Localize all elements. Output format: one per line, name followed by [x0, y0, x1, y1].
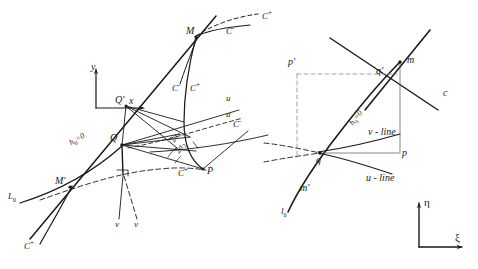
left-line-v-left — [119, 176, 123, 219]
left-curve-label-c-minus-top: C- — [226, 25, 234, 36]
left-y-axis-label: y — [91, 62, 95, 72]
left-point-label-M-prime: M' — [55, 176, 65, 186]
right-point-label-p: p — [402, 148, 407, 158]
right-dashed-guides — [297, 74, 397, 155]
right-point-label-m-prime: m' — [300, 183, 309, 193]
left-point-label-Q-prime: Q' — [115, 95, 124, 105]
left-straight-line-QM — [30, 16, 216, 239]
figure-canvas: y x M Q' Q P M' C+ C- C- C+ C- C+ C+ u u… — [0, 0, 478, 269]
left-line-P-upper-right — [203, 131, 248, 169]
left-curve-label-c-minus-right: C- — [233, 118, 241, 129]
left-line-u-upper — [122, 110, 239, 145]
left-line-label-u-lower: u — [226, 110, 231, 119]
right-label-v-line: v - line — [368, 127, 396, 137]
left-curve-label-c-minus-mid: C- — [172, 82, 180, 93]
left-curve-label-c-plus-P: C+ — [178, 167, 188, 178]
right-point-label-p-prime: p' — [288, 57, 295, 67]
left-line-label-L0: L0 — [8, 192, 16, 203]
left-line-label-v-left: v — [115, 220, 119, 229]
left-curve-label-c-plus-top: C+ — [262, 10, 272, 21]
left-curve-c-minus-mid — [180, 38, 197, 84]
right-point-label-q-prime: q' — [376, 66, 383, 76]
left-Q-fan — [122, 110, 239, 169]
left-curve-L0-to-Q — [20, 146, 122, 203]
left-curve-label-c-plus-mid: C+ — [190, 82, 200, 93]
left-tick-near-P — [193, 142, 198, 148]
left-point-label-Q: Q — [110, 133, 117, 143]
left-curve-label-c-plus-bottom: C+ — [24, 240, 34, 251]
right-eta-axis-label: η — [424, 197, 430, 208]
right-xi-axis-label: ξ — [455, 232, 460, 243]
left-point-label-M: M — [186, 26, 194, 36]
figure-svg — [0, 0, 478, 269]
left-x-axis-label: x — [129, 96, 133, 106]
right-curve-u-line — [318, 153, 392, 174]
left-line-label-v-right: v — [134, 220, 138, 229]
right-dashed-left-curves — [264, 143, 320, 162]
left-point-label-P: P — [207, 166, 213, 176]
right-label-u-line: u - line — [366, 173, 394, 183]
left-segment-Q-down — [122, 146, 123, 175]
left-line-v-right-dashed — [124, 176, 137, 219]
right-label-l0: l0 — [281, 207, 287, 218]
right-point-label-m: m — [407, 55, 414, 65]
right-curve-label-c: c — [443, 88, 447, 98]
left-line-label-u-upper: u — [226, 94, 231, 103]
right-point-label-q: q — [316, 155, 321, 165]
